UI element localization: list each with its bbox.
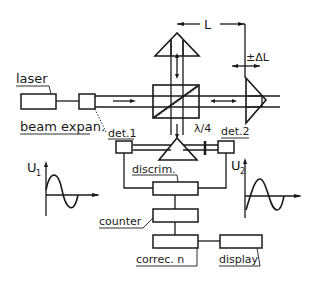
interferometer-diagram: laser beam expan. L ±ΔL — [0, 0, 317, 283]
correction-label: correc. n — [136, 253, 184, 266]
arrow-right-icon — [130, 99, 136, 103]
correction-box — [153, 235, 198, 248]
counter-box — [153, 209, 198, 222]
length-label: L — [204, 17, 212, 32]
quarter-wave-label: λ/4 — [194, 122, 211, 135]
display-box — [220, 235, 262, 248]
beam-expander-label: beam expan. — [20, 119, 105, 134]
signal-u1-plot: U 1 — [27, 160, 100, 216]
laser-label: laser — [16, 71, 48, 86]
svg-text:2: 2 — [240, 167, 245, 176]
arrow-down-icon — [175, 74, 179, 79]
display-label: display — [219, 253, 259, 266]
arrow-right-icon — [232, 99, 237, 103]
det2-label: det.2 — [221, 125, 250, 138]
discriminator-box — [153, 182, 198, 195]
arrow-left-icon — [210, 99, 215, 103]
discriminator-label: discrim. — [132, 163, 176, 176]
delta-length-label: ±ΔL — [246, 51, 270, 64]
det1-label: det.1 — [108, 127, 137, 140]
reference-prism — [155, 33, 199, 56]
detector-prism — [159, 138, 197, 160]
det1-box — [116, 141, 132, 153]
laser-box — [21, 94, 56, 109]
svg-text:1: 1 — [36, 169, 41, 178]
signal-u2-plot: U 2 — [231, 158, 302, 218]
measuring-prism — [246, 78, 266, 123]
counter-label: counter — [99, 215, 142, 228]
det2-box — [218, 141, 234, 153]
beam-expander-box — [79, 94, 95, 109]
